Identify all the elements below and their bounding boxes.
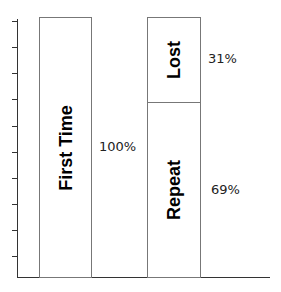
y-tick xyxy=(12,256,17,257)
y-axis xyxy=(17,19,18,278)
y-tick xyxy=(12,73,17,74)
bar-first-time: First Time xyxy=(39,17,92,278)
first-time-value-label: 100% xyxy=(99,139,136,154)
y-tick xyxy=(12,152,17,153)
repeat-value-label: 69% xyxy=(211,182,240,197)
bar-repeat-lost: Lost Repeat xyxy=(147,17,201,278)
y-tick xyxy=(12,47,17,48)
repeat-label: Repeat xyxy=(164,159,185,219)
y-tick xyxy=(12,204,17,205)
y-tick xyxy=(12,99,17,100)
segment-lost: Lost xyxy=(148,18,200,103)
first-time-label: First Time xyxy=(55,105,76,191)
segment-repeat: Repeat xyxy=(148,102,200,277)
y-tick xyxy=(12,230,17,231)
lost-value-label: 31% xyxy=(208,51,237,66)
y-tick xyxy=(12,126,17,127)
y-tick xyxy=(12,178,17,179)
lost-label: Lost xyxy=(164,41,185,79)
y-tick xyxy=(12,21,17,22)
